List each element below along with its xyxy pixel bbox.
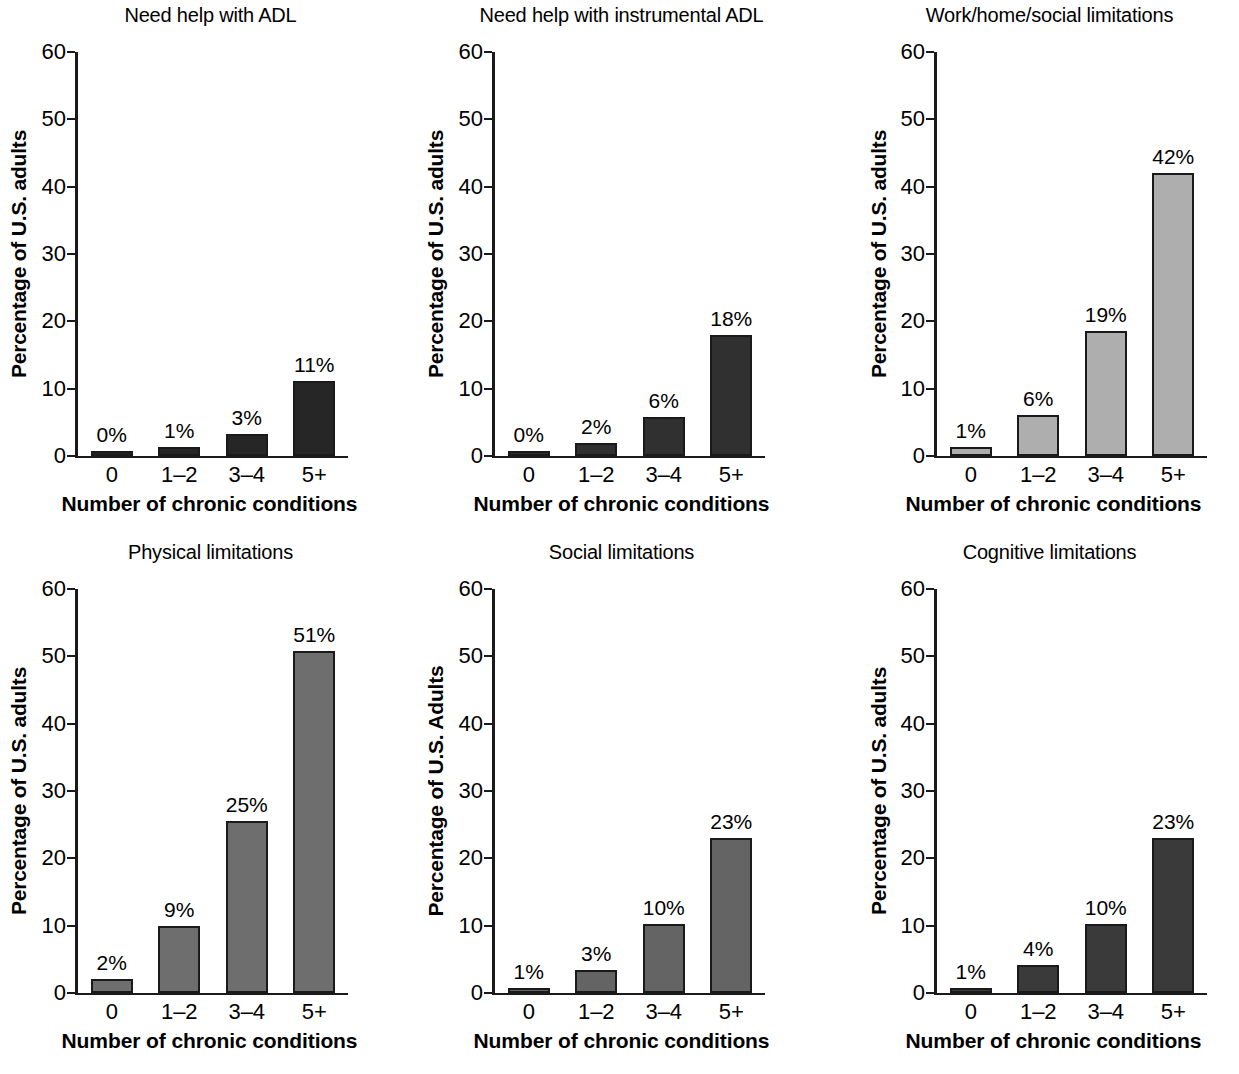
y-axis-tick-mark — [484, 790, 492, 792]
bar-value-label: 3% — [232, 407, 262, 428]
y-axis-tick-mark — [926, 588, 934, 590]
x-axis-label: Number of chronic conditions — [830, 1029, 1239, 1053]
x-axis-tick-label: 1–2 — [578, 1001, 615, 1023]
bar-value-label: 23% — [1152, 811, 1194, 832]
y-axis-tick-label: 40 — [901, 176, 925, 198]
bar-group: 51%5+ — [281, 589, 349, 993]
y-axis-tick-mark — [926, 455, 934, 457]
bar — [710, 335, 752, 456]
y-axis-tick-mark — [926, 992, 934, 994]
y-axis-tick-label: 40 — [42, 176, 66, 198]
y-axis-label-text: Percentage of U.S. adults — [7, 130, 31, 378]
bar — [293, 381, 335, 456]
y-axis-tick-label: 60 — [901, 41, 925, 63]
bar-series: 0%01%1–23%3–411%5+ — [78, 52, 348, 456]
bar — [575, 970, 617, 993]
x-axis-tick-label: 5+ — [1161, 464, 1186, 486]
bar — [508, 451, 550, 456]
bar — [91, 979, 133, 993]
x-axis-tick-label: 5+ — [1161, 1001, 1186, 1023]
y-axis-tick-mark — [67, 723, 75, 725]
y-axis-tick-label: 40 — [42, 713, 66, 735]
bar — [1152, 838, 1194, 993]
y-axis-tick-label: 50 — [42, 108, 66, 130]
y-axis-label: Percentage of U.S. Adults — [423, 589, 449, 993]
bar-group: 3%3–4 — [213, 52, 281, 456]
chart-panel: Cognitive limitationsPercentage of U.S. … — [830, 537, 1239, 1074]
bar-value-label: 10% — [1085, 897, 1127, 918]
plot-area: 01020304050602%09%1–225%3–451%5+ — [75, 589, 327, 993]
bar — [293, 651, 335, 993]
bar — [575, 443, 617, 456]
y-axis-tick-mark — [67, 655, 75, 657]
y-axis-tick-mark — [484, 455, 492, 457]
bar — [91, 451, 133, 456]
y-axis-tick-label: 30 — [459, 243, 483, 265]
y-axis-tick-mark — [67, 388, 75, 390]
y-axis-tick-mark — [926, 186, 934, 188]
x-axis-tick-label: 1–2 — [161, 464, 198, 486]
y-axis-tick-mark — [67, 320, 75, 322]
y-axis-tick-label: 20 — [901, 847, 925, 869]
x-axis-label: Number of chronic conditions — [417, 1029, 826, 1053]
x-axis-tick-label: 1–2 — [578, 464, 615, 486]
bar — [508, 988, 550, 993]
y-axis-tick-mark — [926, 253, 934, 255]
y-axis-label: Percentage of U.S. adults — [423, 52, 449, 456]
y-axis-tick-label: 60 — [901, 578, 925, 600]
y-axis-tick-label: 30 — [901, 780, 925, 802]
x-axis-tick-label: 3–4 — [1087, 464, 1124, 486]
y-axis-tick-mark — [926, 655, 934, 657]
bar-group: 25%3–4 — [213, 589, 281, 993]
y-axis-tick-label: 30 — [42, 243, 66, 265]
x-axis-tick-label: 1–2 — [1020, 1001, 1057, 1023]
bar-value-label: 0% — [514, 424, 544, 445]
bar-group: 19%3–4 — [1072, 52, 1140, 456]
y-axis-label: Percentage of U.S. adults — [866, 52, 892, 456]
bar — [158, 447, 200, 456]
bar-value-label: 10% — [643, 897, 685, 918]
bar-series: 0%02%1–26%3–418%5+ — [495, 52, 765, 456]
y-axis-tick-label: 10 — [42, 378, 66, 400]
y-axis-tick-mark — [484, 320, 492, 322]
y-axis-tick-label: 30 — [459, 780, 483, 802]
y-axis-tick-label: 50 — [459, 645, 483, 667]
panel-title: Social limitations — [417, 541, 826, 564]
x-axis-line — [934, 456, 1207, 458]
panel-title: Work/home/social limitations — [830, 4, 1239, 27]
y-axis-tick-mark — [484, 186, 492, 188]
y-axis-tick-mark — [67, 790, 75, 792]
bar — [1017, 415, 1059, 456]
y-axis-label-text: Percentage of U.S. adults — [867, 667, 891, 915]
y-axis-tick-mark — [484, 723, 492, 725]
x-axis-label: Number of chronic conditions — [417, 492, 826, 516]
x-axis-tick-label: 3–4 — [645, 1001, 682, 1023]
plot-area: 01020304050600%02%1–26%3–418%5+ — [492, 52, 744, 456]
panel-title: Need help with ADL — [0, 4, 409, 27]
y-axis-tick-mark — [67, 925, 75, 927]
x-axis-tick-label: 3–4 — [228, 464, 265, 486]
chart-panel: Need help with instrumental ADLPercentag… — [417, 0, 826, 537]
chart-panel: Work/home/social limitationsPercentage o… — [830, 0, 1239, 537]
bar-value-label: 1% — [956, 961, 986, 982]
x-axis-tick-label: 5+ — [302, 1001, 327, 1023]
y-axis-tick-label: 0 — [471, 445, 483, 467]
y-axis-tick-label: 0 — [471, 982, 483, 1004]
bar-value-label: 1% — [514, 961, 544, 982]
y-axis-tick-label: 30 — [42, 780, 66, 802]
y-axis-tick-mark — [484, 388, 492, 390]
bar-group: 0%0 — [78, 52, 146, 456]
panel-title: Cognitive limitations — [830, 541, 1239, 564]
bar-value-label: 19% — [1085, 304, 1127, 325]
bar — [643, 924, 685, 993]
bar-group: 11%5+ — [281, 52, 349, 456]
panel-title: Physical limitations — [0, 541, 409, 564]
bar-value-label: 4% — [1023, 938, 1053, 959]
bar-value-label: 51% — [293, 624, 335, 645]
bar-group: 3%1–2 — [563, 589, 631, 993]
bar-series: 1%06%1–219%3–442%5+ — [937, 52, 1207, 456]
y-axis-tick-label: 0 — [913, 445, 925, 467]
y-axis-tick-mark — [67, 588, 75, 590]
y-axis-label: Percentage of U.S. adults — [6, 589, 32, 993]
bar-value-label: 6% — [649, 390, 679, 411]
